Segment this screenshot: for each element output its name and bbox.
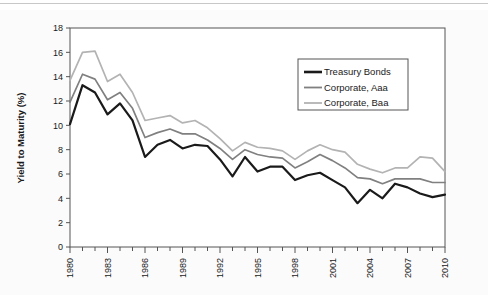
y-tick-label: 10 — [53, 121, 63, 131]
x-tick-label: 1989 — [178, 258, 188, 278]
x-tick-label: 2001 — [328, 258, 338, 278]
top-divider-rule — [0, 3, 488, 4]
x-tick-label: 2007 — [403, 258, 413, 278]
chart-legend: Treasury BondsCorporate, AaaCorporate, B… — [298, 59, 408, 110]
y-tick-label: 2 — [58, 218, 63, 228]
y-tick-label: 12 — [53, 96, 63, 106]
yield-to-maturity-line-chart: 024681012141618 198019831986198919921995… — [0, 10, 488, 295]
y-tick-label: 16 — [53, 48, 63, 58]
page-root: 024681012141618 198019831986198919921995… — [0, 0, 488, 300]
chart-figure: 024681012141618 198019831986198919921995… — [0, 10, 488, 295]
x-tick-label: 1992 — [215, 258, 225, 278]
y-tick-label: 18 — [53, 23, 63, 33]
x-tick-label: 1998 — [290, 258, 300, 278]
legend-label-2: Corporate, Aaa — [324, 82, 389, 93]
x-tick-label: 1986 — [140, 258, 150, 278]
legend-label-3: Corporate, Baa — [324, 97, 389, 108]
y-tick-label: 8 — [58, 145, 63, 155]
y-tick-label: 4 — [58, 194, 63, 204]
x-tick-label: 1983 — [103, 258, 113, 278]
x-tick-label: 2004 — [365, 258, 375, 278]
legend-label-1: Treasury Bonds — [324, 66, 391, 77]
y-tick-label: 0 — [58, 242, 63, 252]
x-tick-label: 1995 — [253, 258, 263, 278]
y-axis-title: Yield to Maturity (%) — [15, 93, 26, 184]
x-tick-label: 1980 — [65, 258, 75, 278]
y-tick-label: 6 — [58, 169, 63, 179]
x-tick-label: 2010 — [440, 258, 450, 278]
y-tick-label: 14 — [53, 72, 63, 82]
